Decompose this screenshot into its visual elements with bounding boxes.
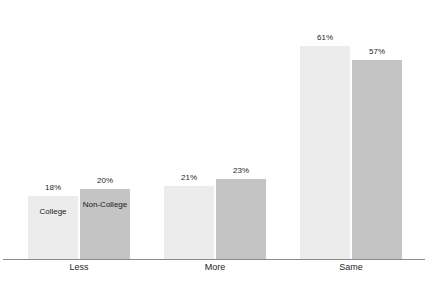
bar-value-label: 57% xyxy=(369,47,385,57)
bar-same-college[interactable]: 61% xyxy=(300,46,350,260)
bar-group-bars: 18% College 20% Non-College xyxy=(28,14,130,259)
bar-value-label: 23% xyxy=(233,166,249,176)
category-label-same: Same xyxy=(300,262,402,273)
legend-label-non-college: Non-College xyxy=(83,200,127,210)
x-axis-baseline xyxy=(3,259,425,260)
bar-group-less: 18% College 20% Non-College xyxy=(28,14,130,259)
bar-group-bars: 61% 57% xyxy=(300,14,402,259)
bar-chart: 18% College 20% Non-College 21% 23% xyxy=(0,0,429,284)
bar-less-non-college[interactable]: 20% Non-College xyxy=(80,189,130,259)
bar-more-college[interactable]: 21% xyxy=(164,186,214,260)
bar-value-label: 18% xyxy=(45,183,61,193)
bar-value-label: 20% xyxy=(97,176,113,186)
bar-value-label: 61% xyxy=(317,33,333,43)
legend-label-college: College xyxy=(39,207,66,217)
bar-less-college[interactable]: 18% College xyxy=(28,196,78,259)
category-label-more: More xyxy=(164,262,266,273)
bar-group-same: 61% 57% xyxy=(300,14,402,259)
plot-area: 18% College 20% Non-College 21% 23% xyxy=(0,0,429,284)
bar-group-more: 21% 23% xyxy=(164,14,266,259)
bar-more-non-college[interactable]: 23% xyxy=(216,179,266,260)
bar-group-bars: 21% 23% xyxy=(164,14,266,259)
bar-same-non-college[interactable]: 57% xyxy=(352,60,402,260)
category-label-less: Less xyxy=(28,262,130,273)
bar-value-label: 21% xyxy=(181,173,197,183)
